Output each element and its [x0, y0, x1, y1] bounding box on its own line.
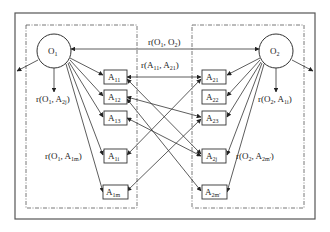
edge-o1-a11 [70, 58, 103, 75]
edge-o2-a2m [227, 64, 264, 192]
ontology-node-o2: O2 [259, 34, 293, 68]
attribute-node-a21: A21 [202, 70, 226, 84]
attribute-node-a11: A11 [104, 70, 127, 84]
attribute-node-a23: A23 [202, 111, 226, 125]
edge-o2-out-right [292, 60, 313, 71]
ontology-diagram: O1 O2 r(O1, O2) r(O1, A2j) r(O2, A1i) r(… [0, 0, 330, 232]
label-r-o1-o2: r(O1, O2) [148, 37, 181, 48]
label-r-o2-a1i: r(O2, A1i) [258, 94, 292, 105]
attribute-node-a1i: A1i [104, 149, 127, 163]
attribute-node-a1m: A1m [103, 185, 128, 199]
attribute-node-a2m: A2m' [202, 185, 227, 199]
ontology-node-o1: O1 [37, 34, 71, 68]
label-r-o1-a2j: r(O1, A2j) [36, 94, 70, 105]
label-r-o1-a1m: r(O1, A1m) [45, 151, 82, 162]
edge-a13-a2j [127, 118, 201, 156]
attribute-node-a2j: A2j [202, 149, 226, 163]
edge-o2-a23 [227, 62, 261, 117]
attribute-node-a22: A22 [202, 90, 226, 104]
attribute-node-a12: A12 [104, 90, 127, 104]
attribute-node-a13: A13 [104, 111, 127, 125]
edge-o1-a1m [66, 64, 103, 192]
edge-o1-a13 [69, 62, 103, 117]
edge-o1-out-left [17, 60, 38, 71]
edge-a1m-a23 [127, 119, 201, 191]
edge-a12-a23 [127, 97, 201, 117]
edge-a12-a2m [127, 99, 201, 191]
label-r-a11-a21: r(A11, A21) [141, 60, 179, 71]
edge-o2-a21 [227, 58, 260, 75]
label-r-o2-a2m: r(O2, A2m') [236, 151, 274, 162]
